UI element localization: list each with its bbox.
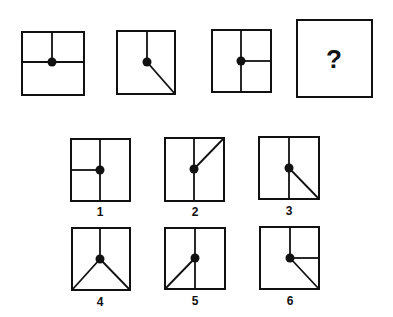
center-dot [285, 164, 294, 173]
center-dot [286, 254, 295, 263]
center-dot [48, 58, 57, 67]
option-label-1[interactable]: 1 [97, 206, 104, 218]
answer-option-2[interactable] [165, 138, 224, 201]
answer-option-1[interactable] [71, 139, 130, 201]
sequence-row [22, 30, 271, 95]
answer-option-4[interactable] [72, 228, 130, 290]
center-dot [191, 254, 200, 263]
sequence-figure-1 [22, 32, 84, 95]
answer-option-5[interactable] [165, 228, 225, 289]
center-dot [237, 57, 246, 66]
question-mark: ? [326, 46, 342, 72]
center-dot [96, 166, 105, 175]
answer-option-3[interactable] [259, 137, 319, 199]
sequence-figure-2 [117, 31, 175, 94]
option-label-4[interactable]: 4 [97, 296, 104, 308]
sequence-figure-3 [212, 30, 271, 92]
center-dot [190, 165, 199, 174]
center-dot [143, 58, 152, 67]
answer-option-6[interactable] [260, 227, 319, 289]
option-label-2[interactable]: 2 [192, 206, 199, 218]
option-label-6[interactable]: 6 [287, 295, 294, 307]
option-label-5[interactable]: 5 [192, 295, 199, 307]
option-label-3[interactable]: 3 [286, 205, 293, 217]
center-dot [96, 255, 105, 264]
